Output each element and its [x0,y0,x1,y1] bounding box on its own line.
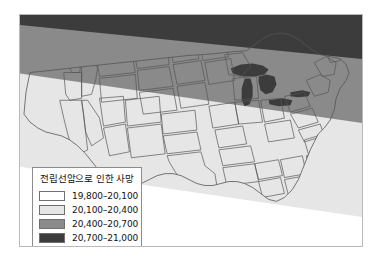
legend-swatch-20100-20400 [39,205,65,215]
legend-label-20100-20400: 20,100–20,400 [72,205,138,215]
legend-item: 19,800–20,100 [39,189,135,202]
legend-title: 전립선암으로 인한 사망 [39,173,135,185]
legend-label-19800-20100: 19,800–20,100 [72,191,138,201]
legend-item: 20,700–21,000 [39,231,135,244]
figure-container: 전립선암으로 인한 사망 19,800–20,100 20,100–20,400… [0,0,381,265]
legend-item: 20,100–20,400 [39,203,135,216]
legend-item: 20,400–20,700 [39,217,135,230]
legend-swatch-20700-21000 [39,233,65,243]
legend-swatch-20400-20700 [39,219,65,229]
legend-label-20700-21000: 20,700–21,000 [72,233,138,243]
legend-label-20400-20700: 20,400–20,700 [72,219,138,229]
legend: 전립선암으로 인한 사망 19,800–20,100 20,100–20,400… [32,167,142,247]
map-frame: 전립선암으로 인한 사망 19,800–20,100 20,100–20,400… [19,14,363,247]
legend-swatch-19800-20100 [39,191,65,201]
